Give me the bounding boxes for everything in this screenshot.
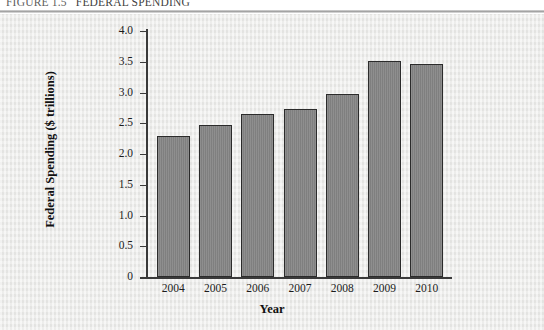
y-axis-tick-label: 1.0 xyxy=(99,209,133,221)
bar-texture xyxy=(285,110,316,276)
x-axis-tick-label: 2010 xyxy=(403,282,451,294)
x-axis-title: Year xyxy=(0,302,544,317)
y-axis-tick-label: 0 xyxy=(99,270,133,282)
chart-panel: 00.51.01.52.02.53.03.54.0 20042005200620… xyxy=(0,14,544,330)
x-axis-tick-label: 2005 xyxy=(191,282,239,294)
x-axis-tick-label: 2008 xyxy=(318,282,366,294)
bar-texture xyxy=(158,137,189,276)
y-axis-tick xyxy=(140,31,147,32)
bar xyxy=(199,125,232,277)
y-axis-tick-label: 3.5 xyxy=(99,55,133,67)
bar xyxy=(157,136,190,277)
y-axis-tick-label: 0.5 xyxy=(99,239,133,251)
bar-texture xyxy=(200,126,231,276)
y-axis-tick xyxy=(140,62,147,63)
bar xyxy=(241,114,274,277)
y-axis-tick-label: 3.0 xyxy=(99,86,133,98)
x-axis-tick-label: 2009 xyxy=(361,282,409,294)
bar xyxy=(410,64,443,277)
bar xyxy=(368,61,401,277)
y-axis-title: Federal Spending ($ trillions) xyxy=(43,40,58,260)
y-axis-tick xyxy=(140,185,147,186)
bar-texture xyxy=(327,95,358,276)
figure-number: FIGURE 1.5 xyxy=(6,0,67,8)
y-axis-tick xyxy=(140,246,147,247)
bar-texture xyxy=(242,115,273,276)
x-axis-line xyxy=(140,277,452,279)
figure-caption: FIGURE 1.5 FEDERAL SPENDING xyxy=(6,0,190,9)
caption-divider xyxy=(0,10,544,13)
y-axis-tick xyxy=(140,93,147,94)
bar-texture xyxy=(369,62,400,276)
bar xyxy=(284,109,317,277)
x-axis-tick-label: 2007 xyxy=(276,282,324,294)
y-axis-tick-label: 1.5 xyxy=(99,178,133,190)
x-axis-tick-label: 2006 xyxy=(234,282,282,294)
bar xyxy=(326,94,359,277)
y-axis-tick xyxy=(140,216,147,217)
y-axis-tick xyxy=(140,123,147,124)
y-axis-tick-label: 4.0 xyxy=(99,24,133,36)
bar-texture xyxy=(411,65,442,276)
figure-title: FEDERAL SPENDING xyxy=(76,0,190,8)
y-axis-tick xyxy=(140,277,147,278)
y-axis-tick xyxy=(140,154,147,155)
y-axis-tick-label: 2.0 xyxy=(99,147,133,159)
y-axis-tick-label: 2.5 xyxy=(99,116,133,128)
x-axis-tick-label: 2004 xyxy=(149,282,197,294)
